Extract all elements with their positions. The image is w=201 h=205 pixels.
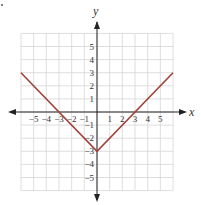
y-tick-label: −2 — [84, 133, 94, 143]
y-tick-label: 2 — [90, 81, 95, 91]
x-tick-label: −5 — [29, 114, 39, 124]
x-tick-label: 3 — [133, 114, 138, 124]
x-tick-label: 4 — [145, 114, 150, 124]
y-tick-label: 3 — [90, 68, 95, 78]
y-tick-label: 4 — [90, 55, 95, 65]
y-axis-down-arrow — [94, 194, 100, 202]
y-tick-label: −5 — [84, 173, 94, 183]
y-tick-label: −4 — [84, 159, 94, 169]
coordinate-plane: −5−4−3−2−11234554321−1−2−3−4−5 x y — [0, 0, 201, 205]
x-tick-label: 5 — [158, 114, 163, 124]
y-axis-label: y — [92, 4, 99, 18]
x-axis-right-arrow — [179, 109, 187, 115]
x-tick-label: −4 — [42, 114, 52, 124]
y-tick-label: 5 — [90, 42, 95, 52]
y-axis-up-arrow — [94, 21, 100, 29]
y-tick-label: 1 — [90, 94, 95, 104]
x-axis-label: x — [188, 105, 195, 119]
x-axis-left-arrow — [8, 109, 16, 115]
x-tick-label: 1 — [107, 114, 112, 124]
y-tick-label: −1 — [84, 120, 94, 130]
